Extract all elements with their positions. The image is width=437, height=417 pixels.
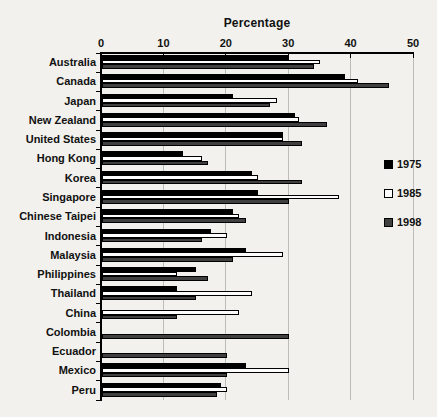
category-label-philippines: Philippines bbox=[0, 267, 96, 281]
y-tick-mark bbox=[96, 284, 100, 285]
category-label-peru: Peru bbox=[0, 383, 96, 397]
y-tick-mark bbox=[96, 342, 100, 343]
chart-title: Percentage bbox=[101, 16, 413, 30]
category-label-thailand: Thailand bbox=[0, 286, 96, 300]
y-tick-mark bbox=[96, 72, 100, 73]
legend-item-1975: 1975 bbox=[384, 157, 421, 171]
bar-1998-hong-kong bbox=[102, 161, 208, 166]
y-tick-mark bbox=[96, 322, 100, 323]
x-tick-label-30: 30 bbox=[282, 36, 294, 50]
category-label-singapore: Singapore bbox=[0, 190, 96, 204]
x-tick-mark-50 bbox=[413, 54, 414, 58]
bar-1998-singapore bbox=[102, 199, 289, 204]
y-tick-mark bbox=[96, 303, 100, 304]
y-tick-mark bbox=[96, 207, 100, 208]
category-label-new-zealand: New Zealand bbox=[0, 113, 96, 127]
bar-1998-canada bbox=[102, 83, 389, 88]
bar-1998-ecuador bbox=[102, 353, 227, 358]
y-tick-mark bbox=[96, 380, 100, 381]
bar-1998-japan bbox=[102, 103, 270, 108]
x-axis-line bbox=[100, 52, 414, 54]
x-tick-mark-40 bbox=[350, 54, 351, 58]
category-label-malaysia: Malaysia bbox=[0, 248, 96, 262]
bar-1998-thailand bbox=[102, 296, 196, 301]
y-tick-mark bbox=[96, 187, 100, 188]
bar-1998-new-zealand bbox=[102, 122, 327, 127]
category-label-mexico: Mexico bbox=[0, 363, 96, 377]
gridline-30 bbox=[288, 54, 289, 400]
gridline-40 bbox=[350, 54, 351, 400]
bar-1998-korea bbox=[102, 180, 302, 185]
category-label-chinese-taipei: Chinese Taipei bbox=[0, 209, 96, 223]
legend-item-1985: 1985 bbox=[384, 186, 421, 200]
bar-1998-malaysia bbox=[102, 257, 233, 262]
category-label-ecuador: Ecuador bbox=[0, 344, 96, 358]
y-tick-mark bbox=[96, 168, 100, 169]
x-tick-label-10: 10 bbox=[157, 36, 169, 50]
plot-area bbox=[101, 53, 413, 400]
category-label-australia: Australia bbox=[0, 55, 96, 69]
y-tick-mark bbox=[96, 110, 100, 111]
legend-label-1975: 1975 bbox=[397, 158, 421, 170]
y-tick-mark bbox=[96, 91, 100, 92]
y-tick-mark bbox=[96, 130, 100, 131]
category-label-canada: Canada bbox=[0, 74, 96, 88]
bar-1998-mexico bbox=[102, 373, 227, 378]
category-label-korea: Korea bbox=[0, 171, 96, 185]
x-tick-label-40: 40 bbox=[344, 36, 356, 50]
bar-1998-peru bbox=[102, 392, 217, 397]
y-tick-mark bbox=[96, 265, 100, 266]
y-tick-mark bbox=[96, 53, 100, 54]
bar-1998-chinese-taipei bbox=[102, 218, 246, 223]
bar-1998-china bbox=[102, 315, 177, 320]
category-label-colombia: Colombia bbox=[0, 325, 96, 339]
category-label-japan: Japan bbox=[0, 94, 96, 108]
y-tick-mark bbox=[96, 226, 100, 227]
x-tick-label-0: 0 bbox=[98, 36, 104, 50]
y-tick-mark bbox=[96, 361, 100, 362]
y-tick-mark bbox=[96, 400, 100, 401]
y-tick-mark bbox=[96, 149, 100, 150]
legend-item-1998: 1998 bbox=[384, 215, 421, 229]
legend: 197519851998 bbox=[384, 157, 421, 244]
bar-1998-australia bbox=[102, 64, 314, 69]
legend-label-1985: 1985 bbox=[397, 187, 421, 199]
bar-1998-indonesia bbox=[102, 238, 202, 243]
legend-swatch-1998-icon bbox=[384, 218, 393, 227]
y-tick-mark bbox=[96, 245, 100, 246]
legend-swatch-1975-icon bbox=[384, 160, 393, 169]
x-tick-label-50: 50 bbox=[407, 36, 419, 50]
bar-chart: Percentage 01020304050 AustraliaCanadaJa… bbox=[0, 0, 437, 417]
category-label-united-states: United States bbox=[0, 132, 96, 146]
x-tick-label-20: 20 bbox=[220, 36, 232, 50]
bar-1998-colombia bbox=[102, 334, 289, 339]
category-label-china: China bbox=[0, 306, 96, 320]
legend-swatch-1985-icon bbox=[384, 189, 393, 198]
category-label-hong-kong: Hong Kong bbox=[0, 151, 96, 165]
bar-1998-philippines bbox=[102, 276, 208, 281]
legend-label-1998: 1998 bbox=[397, 216, 421, 228]
bar-1998-united-states bbox=[102, 141, 302, 146]
category-label-indonesia: Indonesia bbox=[0, 229, 96, 243]
